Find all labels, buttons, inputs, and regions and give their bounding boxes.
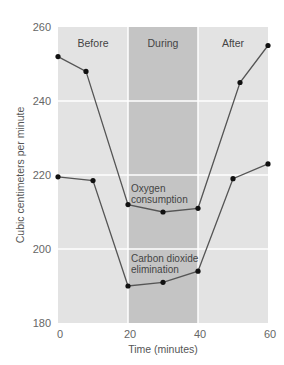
data-point [55, 174, 60, 179]
y-tick-label: 260 [33, 21, 51, 33]
series-annotation-1: elimination [131, 264, 179, 275]
respiration-line-chart: BeforeDuringAfter OxygenconsumptionCarbo… [0, 0, 284, 365]
data-point [160, 280, 165, 285]
data-point [160, 209, 165, 214]
data-point [265, 43, 270, 48]
x-axis-ticks: 0204060 [57, 328, 276, 340]
y-tick-label: 240 [33, 95, 51, 107]
y-tick-label: 180 [33, 317, 51, 329]
y-tick-label: 220 [33, 169, 51, 181]
series-annotation-1: Carbon dioxide [131, 253, 199, 264]
series-annotation-0: Oxygen [131, 183, 165, 194]
data-point [90, 178, 95, 183]
x-tick-label: 20 [124, 328, 136, 340]
phase-label-before: Before [78, 37, 109, 49]
data-point [195, 206, 200, 211]
series-annotation-0: consumption [131, 194, 188, 205]
data-point [195, 269, 200, 274]
y-axis-ticks: 180200220240260 [33, 21, 51, 329]
x-tick-label: 40 [194, 328, 206, 340]
phase-label-after: After [222, 37, 245, 49]
x-tick-label: 0 [57, 328, 63, 340]
phase-label-during: During [148, 37, 179, 49]
data-point [237, 80, 242, 85]
data-point [83, 69, 88, 74]
data-point [125, 202, 130, 207]
x-axis-label: Time (minutes) [128, 343, 198, 355]
y-axis-label: Cubic centimeters per minute [14, 107, 26, 244]
y-tick-label: 200 [33, 243, 51, 255]
data-point [55, 54, 60, 59]
data-point [265, 161, 270, 166]
data-point [125, 283, 130, 288]
x-tick-label: 60 [264, 328, 276, 340]
data-point [230, 176, 235, 181]
